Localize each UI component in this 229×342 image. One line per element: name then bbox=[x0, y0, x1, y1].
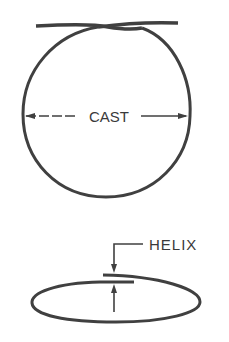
arrow-right-icon bbox=[178, 113, 188, 119]
cast-dimension-left bbox=[25, 113, 78, 119]
arrow-up-icon bbox=[111, 284, 117, 293]
cast-end-right bbox=[98, 23, 178, 27]
diagram-canvas: CAST HELIX bbox=[0, 0, 229, 342]
helix-loop bbox=[32, 275, 200, 322]
arrow-down-icon bbox=[111, 264, 117, 273]
cast-figure: CAST bbox=[23, 23, 190, 197]
arrow-left-icon bbox=[25, 113, 35, 119]
cast-label: CAST bbox=[89, 108, 129, 125]
helix-label: HELIX bbox=[149, 236, 197, 253]
helix-leader bbox=[114, 244, 143, 268]
helix-figure: HELIX bbox=[32, 236, 200, 322]
cast-dimension-right bbox=[141, 113, 188, 119]
